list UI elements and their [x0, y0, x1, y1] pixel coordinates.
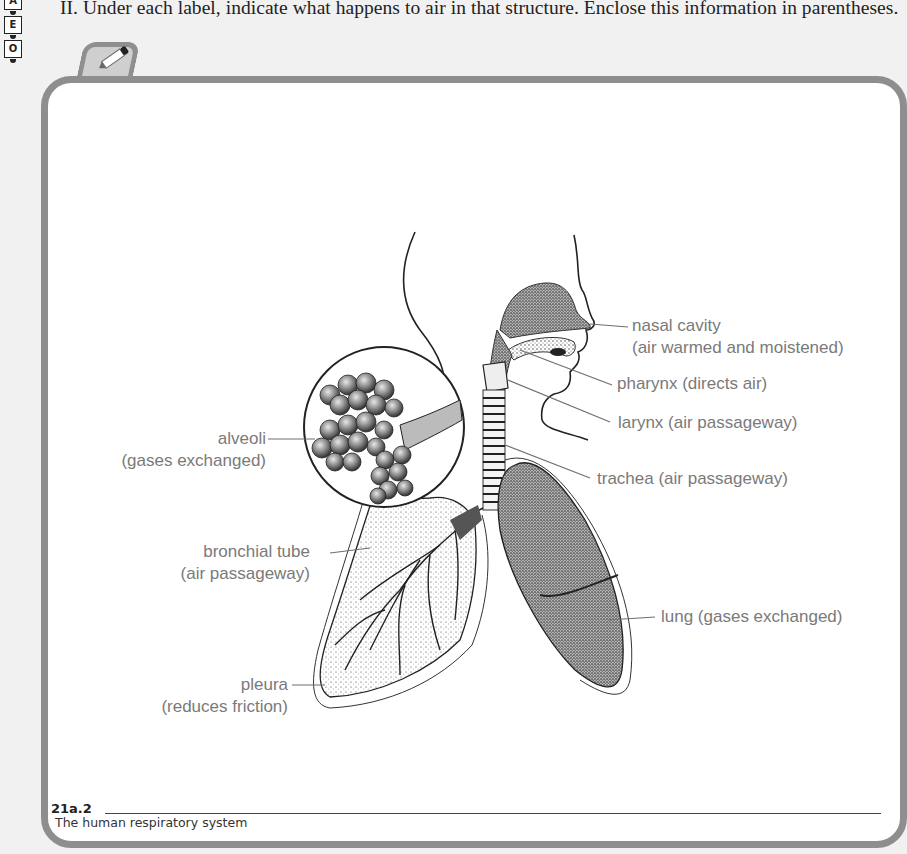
label-alveoli-name: alveoli: [110, 428, 266, 450]
figure-caption: The human respiratory system: [55, 815, 247, 830]
label-alveoli-function: (gases exchanged): [110, 450, 266, 472]
label-larynx: larynx (air passageway): [618, 412, 798, 434]
label-bronchial-tube: bronchial tube (air passageway): [160, 541, 310, 585]
label-bronchial-tube-name: bronchial tube: [160, 541, 310, 563]
label-bronchial-tube-function: (air passageway): [160, 563, 310, 585]
figure-divider: [105, 813, 881, 814]
label-lung: lung (gases exchanged): [661, 606, 842, 628]
label-pleura-name: pleura: [148, 674, 288, 696]
label-pharynx: pharynx (directs air): [617, 373, 767, 395]
figure-number: 21a.2: [51, 801, 92, 816]
label-pleura: pleura (reduces friction): [148, 674, 288, 718]
label-nasal-cavity-function: (air warmed and moistened): [632, 337, 844, 359]
label-pleura-function: (reduces friction): [148, 696, 288, 718]
label-nasal-cavity: nasal cavity (air warmed and moistened): [632, 315, 844, 359]
label-nasal-cavity-name: nasal cavity: [632, 315, 844, 337]
label-alveoli: alveoli (gases exchanged): [110, 428, 266, 472]
label-trachea: trachea (air passageway): [597, 468, 788, 490]
